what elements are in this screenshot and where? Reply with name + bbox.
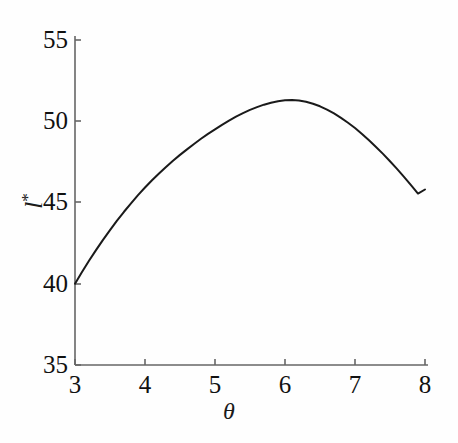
y-tick-label-55: 55 — [22, 27, 68, 52]
y-axis-title-base: l — [20, 202, 47, 209]
data-series-line — [75, 100, 425, 284]
x-axis-ticks — [75, 359, 425, 365]
y-tick-label-40: 40 — [22, 271, 68, 296]
x-tick-label-5: 5 — [200, 372, 230, 397]
x-tick-label-7: 7 — [340, 372, 370, 397]
y-axis-title: l* — [11, 181, 57, 221]
x-tick-label-8: 8 — [410, 372, 440, 397]
y-axis-ticks — [75, 40, 81, 365]
y-axis-title-superscript: * — [18, 193, 37, 202]
x-tick-label-4: 4 — [130, 372, 160, 397]
chart-figure: 55 50 45 40 35 3 4 5 6 7 8 l* θ — [0, 0, 458, 443]
y-tick-label-50: 50 — [22, 108, 68, 133]
x-tick-label-6: 6 — [270, 372, 300, 397]
x-tick-label-3: 3 — [60, 372, 90, 397]
x-axis-title: θ — [0, 398, 458, 425]
